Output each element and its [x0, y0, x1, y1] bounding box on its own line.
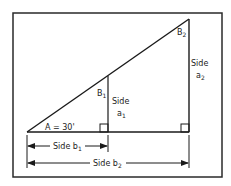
vertex-b1-label: B1 — [97, 89, 107, 99]
angle-a-label: A = 30' — [45, 123, 75, 132]
side-b2-label: Side b2 — [93, 159, 122, 169]
vertex-b2-label: B2 — [177, 28, 187, 38]
side-a2-word: Side — [191, 59, 208, 68]
side-a1-word: Side — [112, 97, 129, 106]
triangle-diagram: A = 30' B1 B2 Side a1 Side a2 Side b1 Si… — [0, 0, 231, 186]
right-angle-marker-2 — [181, 124, 189, 132]
side-a1-symbol: a1 — [117, 109, 126, 119]
side-a2-symbol: a2 — [196, 71, 205, 81]
side-b1-label: Side b1 — [53, 142, 82, 152]
diagram-frame — [13, 13, 222, 177]
right-angle-marker-1 — [100, 124, 108, 132]
